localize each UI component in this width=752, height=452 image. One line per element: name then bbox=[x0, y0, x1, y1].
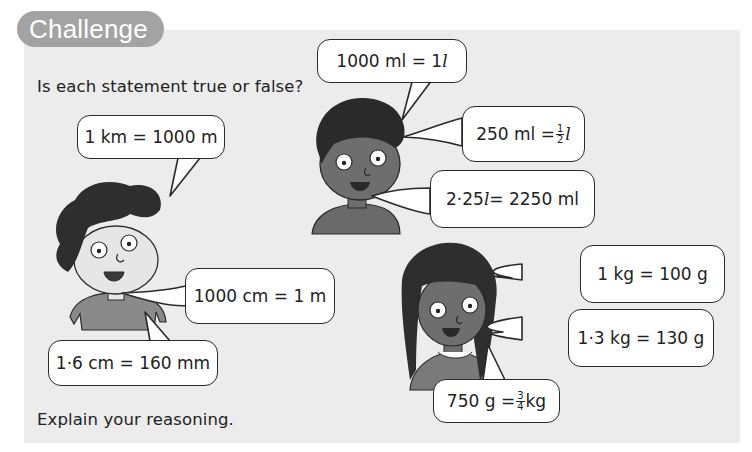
statement-ml3-text-b: = 2250 ml bbox=[489, 189, 579, 209]
statement-kg1-bubble: 1 kg = 100 g bbox=[580, 245, 725, 303]
statement-kg3-text: 750 g = bbox=[447, 391, 515, 411]
statement-ml2-text: 250 ml = bbox=[476, 124, 555, 144]
statement-mm-bubble: 1·6 cm = 160 mm bbox=[48, 340, 218, 386]
statement-kg2-bubble: 1·3 kg = 130 g bbox=[568, 309, 714, 367]
statement-kg3-unit: kg bbox=[526, 391, 547, 411]
statement-cm-text: 1000 cm = 1 m bbox=[194, 286, 326, 306]
statement-ml1-unit: l bbox=[442, 51, 447, 71]
statement-km-text: 1 km = 1000 m bbox=[85, 127, 218, 147]
statement-mm-text: 1·6 cm = 160 mm bbox=[56, 353, 210, 373]
statement-kg3-bubble: 750 g = 34kg bbox=[433, 379, 560, 423]
statement-ml1-text: 1000 ml = 1 bbox=[336, 51, 442, 71]
statement-kg3-fraction: 34 bbox=[516, 391, 524, 412]
statement-ml3-text-a: 2·25 bbox=[446, 189, 484, 209]
statement-cm-bubble: 1000 cm = 1 m bbox=[185, 268, 335, 324]
statement-kg2-text: 1·3 kg = 130 g bbox=[578, 328, 705, 348]
statement-ml2-unit: l bbox=[565, 124, 570, 144]
statement-kg1-text: 1 kg = 100 g bbox=[597, 264, 708, 284]
statement-ml3-bubble: 2·25 l = 2250 ml bbox=[430, 170, 595, 228]
statement-ml2-bubble: 250 ml = 12l bbox=[462, 106, 585, 162]
statement-ml1-bubble: 1000 ml = 1 l bbox=[317, 39, 467, 83]
statement-km-bubble: 1 km = 1000 m bbox=[77, 115, 225, 159]
statement-ml2-fraction: 12 bbox=[556, 124, 564, 145]
